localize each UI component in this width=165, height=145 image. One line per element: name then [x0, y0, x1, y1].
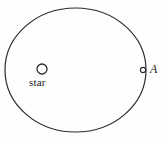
star-label: star	[29, 77, 46, 88]
orbit-diagram: star A	[0, 0, 165, 145]
point-a-label: A	[150, 63, 157, 75]
orbit-ellipse-icon	[5, 8, 146, 132]
diagram-canvas	[0, 0, 165, 145]
star-marker-icon	[37, 64, 47, 74]
point-a-marker-icon	[140, 67, 145, 72]
